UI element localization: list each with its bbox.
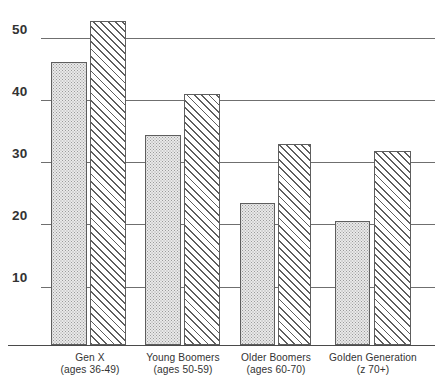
plot-area: 50 40 30 20 10	[0, 0, 446, 350]
category-sublabel-golden-generation: (z 70+)	[308, 364, 438, 376]
x-axis-category-labels: Gen X (ages 36-49) Young Boomers (ages 5…	[0, 352, 446, 392]
x-axis-line	[8, 345, 435, 346]
bar-gen-x-dotted[interactable]	[51, 62, 87, 345]
bar-golden-generation-hatched[interactable]	[374, 151, 411, 345]
bar-gen-x-hatched[interactable]	[90, 21, 126, 345]
category-name-golden-generation: Golden Generation	[308, 352, 438, 364]
bars-layer	[0, 0, 446, 345]
bar-young-boomers-hatched[interactable]	[184, 94, 220, 345]
bar-older-boomers-hatched[interactable]	[278, 144, 311, 345]
category-label-golden-generation: Golden Generation (z 70+)	[308, 352, 438, 377]
bar-golden-generation-dotted[interactable]	[335, 221, 370, 345]
bar-older-boomers-dotted[interactable]	[240, 203, 275, 345]
bar-chart: 50 40 30 20 10 Gen X (ages 36-49) Young …	[0, 0, 446, 392]
bar-young-boomers-dotted[interactable]	[145, 135, 181, 345]
